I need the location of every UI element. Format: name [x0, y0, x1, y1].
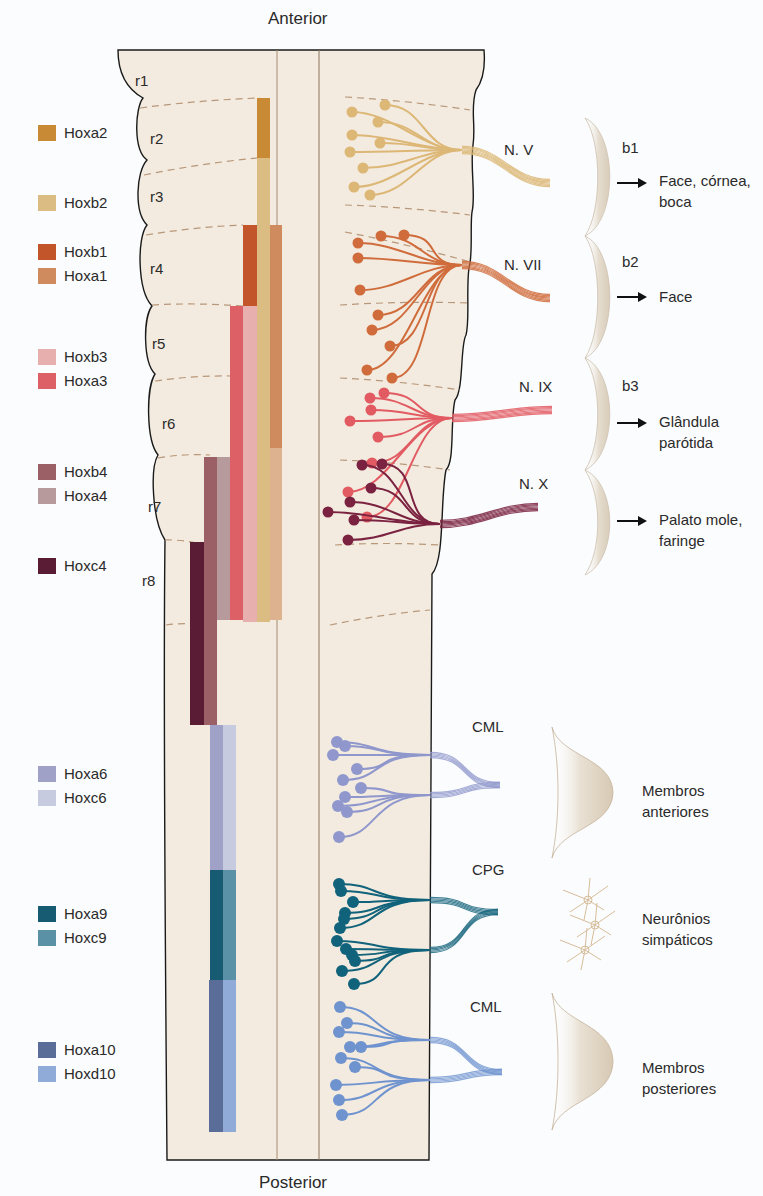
legend-label: Hoxb1	[64, 243, 107, 260]
motor-column-label: CPG	[472, 861, 505, 879]
neuron-soma	[376, 231, 387, 242]
neuron-soma	[348, 978, 360, 990]
target-line: anteriores	[642, 801, 709, 822]
neuron-soma	[358, 163, 369, 174]
legend-swatch	[38, 930, 56, 946]
legend-label: Hoxa6	[64, 765, 107, 782]
neuron-soma	[334, 922, 346, 934]
neuron-soma	[375, 138, 386, 149]
neuron-soma	[347, 896, 359, 908]
target-line: Face, córnea,	[659, 170, 751, 191]
limb-bud-2	[552, 993, 613, 1130]
neuron-soma	[334, 1001, 346, 1013]
target-line: Face	[659, 286, 692, 307]
legend-swatch	[38, 125, 56, 141]
expression-bar-hoxa9	[210, 870, 223, 980]
neuron-soma	[353, 238, 364, 249]
neuron-soma	[349, 1061, 361, 1073]
dendrite	[595, 925, 611, 935]
nerve-fiber	[430, 911, 498, 949]
nerve-label: N. X	[519, 475, 548, 493]
expression-bar-hoxc4	[190, 542, 204, 725]
expression-bar-hoxb2	[257, 158, 270, 622]
nerve-fiber	[430, 913, 498, 951]
target-line: boca	[659, 191, 751, 212]
expression-bar-hoxd10	[223, 980, 236, 1132]
legend-label: Hoxc6	[64, 789, 107, 806]
arch-label-b1: b1	[622, 139, 639, 157]
nerve-label: N. IX	[519, 378, 552, 396]
motor-column-label: CML	[472, 718, 504, 736]
target-line: Membros	[642, 1057, 716, 1078]
legend-item-hoxb2: Hoxb2	[38, 194, 107, 211]
neuron-soma	[333, 831, 345, 843]
neuron-soma	[387, 373, 398, 384]
legend-label: Hoxd10	[64, 1065, 116, 1082]
neuron-soma	[373, 117, 384, 128]
neuron-soma	[336, 965, 348, 977]
neuron-soma	[380, 100, 391, 111]
neuron-soma	[344, 1041, 356, 1053]
neuron-soma	[377, 459, 388, 470]
neuron-soma	[337, 774, 349, 786]
legend-item-hoxb1: Hoxb1	[38, 243, 107, 260]
rhombomere-label-r3: r3	[150, 188, 163, 205]
neuron-soma	[349, 515, 360, 526]
expression-bar-hoxc9	[223, 870, 236, 980]
neuron-soma	[333, 1026, 345, 1038]
neural-tube	[118, 50, 484, 1160]
neuron-soma	[345, 147, 356, 158]
neuron-soma	[330, 1079, 342, 1091]
dendrite	[570, 915, 595, 925]
neural-tube-outline	[118, 50, 484, 1160]
anterior-label: Anterior	[268, 10, 328, 28]
legend-swatch	[38, 195, 56, 211]
legend-label: Hoxb4	[64, 463, 107, 480]
neuron-soma	[341, 806, 353, 818]
target-line: parótida	[659, 432, 719, 453]
dendrite	[567, 950, 585, 962]
neuron-soma	[373, 432, 384, 443]
neuron-soma	[365, 393, 376, 404]
neuron-soma	[366, 483, 377, 494]
neuron-soma	[351, 763, 363, 775]
limb-target-label: Membrosposteriores	[642, 1057, 716, 1099]
expression-bar-hoxa2	[257, 98, 270, 158]
neuron-soma	[347, 130, 358, 141]
legend-swatch	[38, 488, 56, 504]
target-label: Glândulaparótida	[659, 411, 719, 453]
dendrite	[595, 911, 615, 925]
legend-item-hoxb3: Hoxb3	[38, 348, 107, 365]
rhombomere-label-r1: r1	[135, 72, 148, 89]
target-line: simpáticos	[642, 929, 713, 950]
expression-bar-hoxb3	[243, 306, 257, 622]
rhombomere-label-r6: r6	[162, 415, 175, 432]
legend-item-hoxa6: Hoxa6	[38, 765, 107, 782]
arrow-icon	[617, 182, 639, 184]
legend-label: Hoxc9	[64, 929, 107, 946]
sympathetic-neurons	[560, 878, 615, 970]
arrow-icon	[617, 422, 639, 424]
legend-item-hoxd10: Hoxd10	[38, 1065, 116, 1082]
arch-label-b3: b3	[622, 377, 639, 395]
neuron-soma	[362, 365, 373, 376]
neuron-soma	[355, 782, 367, 794]
limb-targets	[552, 727, 615, 1130]
target-line: Glândula	[659, 411, 719, 432]
dendrite	[570, 900, 588, 912]
arrow-icon	[617, 520, 639, 522]
neuron-soma	[323, 507, 334, 518]
branchial-arch-2	[585, 236, 610, 358]
neuron-soma	[345, 497, 356, 508]
legend-label: Hoxc4	[64, 557, 107, 574]
expression-bar-hoxb1	[243, 225, 257, 306]
rhombomere-label-r8: r8	[142, 572, 155, 589]
neuron-soma	[399, 230, 410, 241]
nerve-fiber	[430, 912, 498, 950]
legend-label: Hoxa1	[64, 267, 107, 284]
nerve-label: N. VII	[504, 256, 542, 274]
legend-item-hoxc9: Hoxc9	[38, 929, 107, 946]
nerve-fiber	[430, 755, 500, 785]
target-label: Face, córnea,boca	[659, 170, 751, 212]
neuron-soma	[345, 416, 356, 427]
